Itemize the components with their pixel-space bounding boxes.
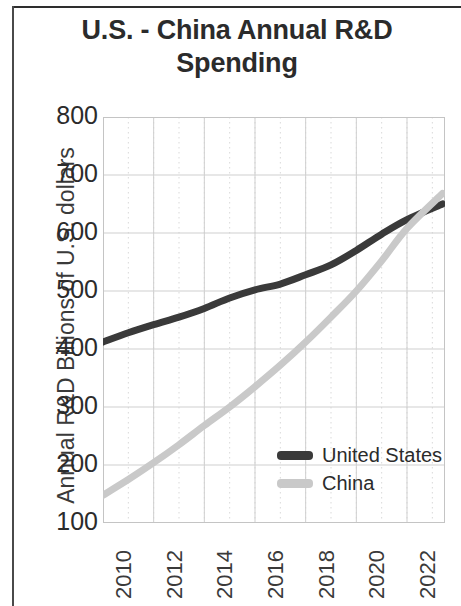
- legend-swatch: [277, 479, 313, 488]
- x-axis-tick-label: 2022: [415, 550, 441, 599]
- y-axis-tick-label: 800: [28, 101, 98, 130]
- x-axis-tick-label: 2012: [162, 550, 188, 599]
- y-axis-tick-label: 200: [28, 449, 98, 478]
- y-axis-tick-label: 400: [28, 333, 98, 362]
- y-axis-tick-label: 600: [28, 217, 98, 246]
- y-axis-tick-label: 300: [28, 391, 98, 420]
- y-axis-tick-label: 500: [28, 275, 98, 304]
- legend-item: United States: [277, 441, 442, 469]
- y-axis-tick-labels: 800700600500400300200100: [24, 117, 98, 523]
- legend-label: United States: [322, 444, 442, 467]
- x-axis-tick-label: 2016: [263, 550, 289, 599]
- x-axis-tick-labels: 2010201220142016201820202022: [103, 527, 445, 605]
- x-axis-tick-label: 2020: [364, 550, 390, 599]
- legend-label: China: [322, 472, 374, 495]
- chart-figure: U.S. - China Annual R&D Spending Annual …: [0, 0, 461, 606]
- x-axis-tick-label: 2010: [111, 550, 137, 599]
- figure-border-top: [12, 6, 461, 8]
- chart-title: U.S. - China Annual R&D Spending: [22, 14, 452, 80]
- legend-swatch: [277, 451, 313, 460]
- y-axis-tick-label: 100: [28, 507, 98, 536]
- figure-border-left: [12, 6, 14, 606]
- x-axis-tick-label: 2014: [212, 550, 238, 599]
- legend-item: China: [277, 469, 442, 497]
- y-axis-tick-label: 700: [28, 159, 98, 188]
- x-axis-tick-label: 2018: [314, 550, 340, 599]
- chart-legend: United StatesChina: [277, 441, 442, 497]
